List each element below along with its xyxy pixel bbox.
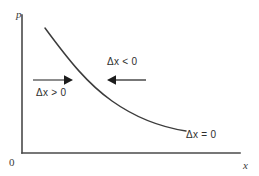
figure-canvas: p x 0 Δx > 0 Δx < 0 Δx = 0 — [0, 0, 259, 176]
annotation-delta-x-positive: Δx > 0 — [36, 88, 66, 98]
arrow-left-icon — [107, 75, 146, 85]
y-axis-label: p — [16, 9, 22, 20]
annotation-delta-x-negative: Δx < 0 — [107, 57, 137, 67]
origin-label: 0 — [9, 157, 15, 168]
annotation-delta-x-zero: Δx = 0 — [186, 130, 216, 140]
x-axis-label: x — [243, 160, 248, 171]
arrow-right-icon — [33, 75, 73, 85]
